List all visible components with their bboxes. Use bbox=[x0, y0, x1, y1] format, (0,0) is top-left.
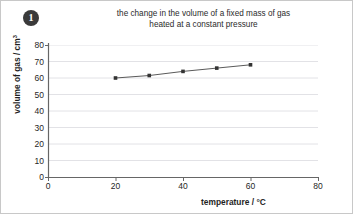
x-axis-title: temperature / °C bbox=[201, 197, 266, 207]
figure-container: 1 the change in the volume of a fixed ma… bbox=[0, 0, 353, 214]
chart-title-line-2: heated at a constant pressure bbox=[61, 19, 346, 30]
x-tick-label: 60 bbox=[236, 181, 266, 191]
x-tick-label: 0 bbox=[33, 181, 63, 191]
y-tick-label: 70 bbox=[14, 57, 44, 67]
y-tick-label: 60 bbox=[14, 73, 44, 83]
y-axis-title-exponent: 3 bbox=[12, 35, 18, 38]
data-point-marker bbox=[181, 70, 185, 74]
data-point-marker bbox=[114, 76, 118, 80]
plot-area bbox=[48, 45, 318, 177]
x-axis-tick-labels: 020406080 bbox=[48, 181, 318, 195]
data-point-marker bbox=[147, 74, 151, 78]
x-tick-label: 80 bbox=[303, 181, 333, 191]
y-tick-label: 50 bbox=[14, 90, 44, 100]
y-tick-label: 10 bbox=[14, 156, 44, 166]
y-axis-tick-labels: 01020304050607080 bbox=[10, 45, 44, 177]
x-tick-label: 40 bbox=[168, 181, 198, 191]
data-point-marker bbox=[215, 66, 219, 70]
data-point-marker bbox=[249, 63, 253, 67]
question-number-badge: 1 bbox=[23, 10, 39, 26]
chart-title-line-1: the change in the volume of a fixed mass… bbox=[61, 8, 346, 19]
plot-svg bbox=[48, 45, 318, 177]
y-tick-label: 20 bbox=[14, 139, 44, 149]
y-tick-label: 40 bbox=[14, 106, 44, 116]
x-tick-label: 20 bbox=[101, 181, 131, 191]
chart-title: the change in the volume of a fixed mass… bbox=[61, 8, 346, 30]
y-tick-label: 80 bbox=[14, 40, 44, 50]
y-tick-label: 30 bbox=[14, 123, 44, 133]
